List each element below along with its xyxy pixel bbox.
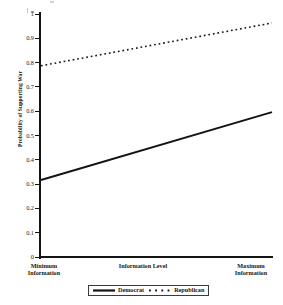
legend-key-solid [93, 288, 115, 293]
series-line-democrat [41, 112, 272, 180]
legend-item-democrat: Democrat [93, 287, 144, 293]
legend-label-republican: Republican [174, 287, 204, 293]
x-axis-title: Information Level [103, 262, 183, 269]
legend-label-democrat: Democrat [118, 287, 144, 293]
legend-key-dotted [149, 288, 171, 293]
legend-item-republican: Republican [149, 287, 204, 293]
chart-figure: 10.90.80.70.60.50.40.30.20.10 Probabilit… [0, 0, 283, 305]
series-layer [0, 0, 283, 305]
chart-legend: Democrat Republican [88, 285, 209, 296]
x-axis-min-label: Minimum Information [16, 262, 72, 277]
x-axis-max-label: Maximum Information [222, 262, 280, 277]
series-line-republican [41, 23, 272, 66]
